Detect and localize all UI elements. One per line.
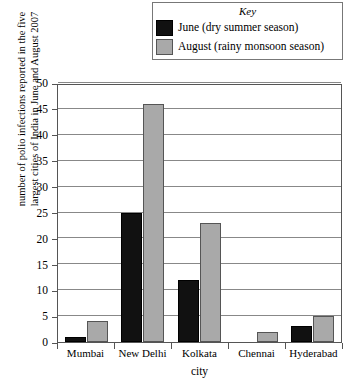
bar-new-delhi-june [121,213,142,343]
legend-item-june-label: June (dry summer season) [178,21,298,34]
x-axis-label-hyderabad: Hyderabad [285,346,342,360]
legend-title: Key [156,5,339,17]
legend-key-box: Key June (dry summer season) August (rai… [152,2,343,60]
bar-group-chennai [228,85,285,342]
bar-chennai-august [257,332,278,342]
bar-hyderabad-june [291,326,312,342]
y-axis-title-line1: number of polio infections reported in t… [15,0,28,227]
bar-group-mumbai [58,85,115,342]
legend-item-june: June (dry summer season) [156,18,339,37]
bar-group-hyderabad [284,85,341,342]
y-tick-label-20: 20 [37,233,53,245]
bar-kolkata-june [178,280,199,342]
y-tick-label-0: 0 [42,337,52,349]
bar-group-new-delhi [115,85,172,342]
bar-mumbai-august [87,321,108,342]
y-axis-title: number of polio infections reported in t… [15,0,41,227]
y-tick-label-15: 15 [37,259,53,271]
x-axis-title: city [57,365,342,378]
y-axis-title-line2: largest cities of India in June and Augu… [28,0,41,227]
bars-layer [58,85,341,342]
y-tick-label-5: 5 [42,311,52,323]
bar-group-kolkata [171,85,228,342]
x-tick-mark-5 [342,343,343,349]
bar-mumbai-june [65,337,86,342]
y-tick-label-10: 10 [37,285,53,297]
x-axis-labels: MumbaiNew DelhiKolkataChennaiHyderabad [57,346,342,360]
bar-new-delhi-august [143,104,164,342]
plot-area [57,84,342,343]
gray-square-icon [156,39,173,55]
x-axis-label-new-delhi: New Delhi [114,346,171,360]
bar-hyderabad-august [313,316,334,342]
bar-kolkata-august [200,223,221,342]
x-axis-label-mumbai: Mumbai [57,346,114,360]
x-axis-label-chennai: Chennai [228,346,285,360]
x-axis-label-kolkata: Kolkata [171,346,228,360]
legend-item-august: August (rainy monsoon season) [156,37,339,56]
gridline-50 [58,82,341,83]
legend-item-august-label: August (rainy monsoon season) [178,40,324,53]
black-square-icon [156,20,173,36]
